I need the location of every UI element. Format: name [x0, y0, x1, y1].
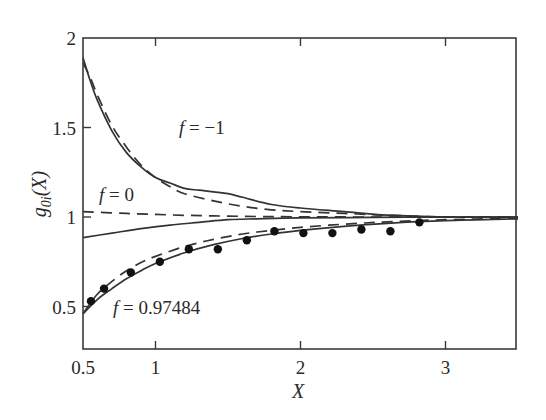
data-point-marker	[357, 225, 365, 233]
x-tick-label: 1	[151, 357, 161, 378]
data-point-marker	[270, 227, 278, 235]
data-points	[87, 218, 424, 305]
x-tick-label: 0.5	[71, 357, 95, 378]
y-tick-label: 1	[67, 207, 77, 228]
data-point-marker	[243, 236, 251, 244]
chart: 0.5123 0.511.52 X g0i(X) f = −1 f = 0 f …	[0, 0, 546, 420]
data-point-marker	[127, 268, 135, 276]
series-line-0	[83, 58, 518, 217]
data-point-marker	[214, 245, 222, 253]
x-axis-ticks: 0.5123	[71, 38, 450, 378]
data-point-marker	[415, 218, 423, 226]
series-line-1	[83, 63, 518, 217]
annotation-f-0-97484: f = 0.97484	[113, 297, 201, 318]
y-axis-ticks: 0.511.52	[52, 28, 91, 318]
svg-text:f = 0: f = 0	[99, 184, 134, 205]
annotation-f-0: f = 0	[99, 184, 134, 205]
data-point-marker	[87, 297, 95, 305]
y-axis-label-tail: (X)	[28, 170, 51, 196]
annotation-f-minus-1: f = −1	[179, 117, 225, 138]
y-axis-label-sub: 0i	[39, 196, 54, 207]
y-tick-label: 0.5	[52, 297, 76, 318]
plot-area	[83, 58, 518, 314]
curves	[83, 58, 518, 314]
x-tick-label: 3	[441, 357, 451, 378]
data-point-marker	[100, 284, 108, 292]
data-point-marker	[185, 245, 193, 253]
x-tick-label: 2	[296, 357, 306, 378]
data-point-marker	[386, 227, 394, 235]
svg-text:f = 0.97484: f = 0.97484	[113, 297, 201, 318]
data-point-marker	[328, 229, 336, 237]
data-point-marker	[299, 229, 307, 237]
y-tick-label: 1.5	[52, 118, 76, 139]
y-axis-label-main: g	[28, 207, 51, 217]
x-axis-label: X	[291, 380, 305, 402]
svg-text:f = −1: f = −1	[179, 117, 225, 138]
y-tick-label: 2	[67, 28, 77, 49]
y-axis-label: g0i(X)	[28, 170, 54, 217]
data-point-marker	[156, 258, 164, 266]
